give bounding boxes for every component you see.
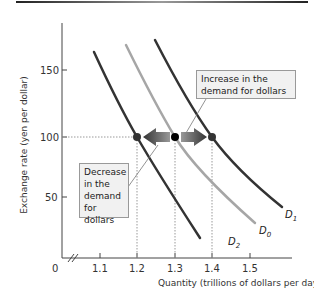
point-d2-equilibrium (133, 133, 141, 141)
curve-d1 (155, 40, 282, 207)
y-tick-label-150: 150 (40, 65, 59, 76)
y-tick-label-100: 100 (40, 132, 59, 143)
decrease-text-4: dollars (84, 214, 124, 226)
y-tick-label-50: 50 (45, 192, 58, 203)
demand-shift-chart: 150 100 50 0 1.1 1.2 1.3 1.4 1.5 Quantit… (0, 0, 314, 304)
point-d1-equilibrium (208, 133, 216, 141)
label-d2: D2 (228, 236, 241, 250)
decrease-text-1: Decrease (84, 166, 124, 178)
label-d0: D0 (259, 225, 272, 239)
increase-text-2: demand for dollars (201, 85, 291, 97)
decrease-text-3: demand for (84, 190, 124, 214)
origin-label: 0 (52, 263, 58, 274)
increase-text-1: Increase in the (201, 73, 291, 85)
decrease-callout: Decrease in the demand for dollars (79, 163, 129, 218)
point-d0-equilibrium (171, 133, 179, 141)
left-arrow-icon (143, 128, 170, 146)
x-tick-label-1.2: 1.2 (129, 263, 145, 274)
right-arrow-icon (181, 128, 207, 146)
y-axis-title: Exchange rate (yen per dollar) (19, 76, 29, 214)
x-tick-label-1.5: 1.5 (242, 263, 258, 274)
x-tick-label-1.4: 1.4 (204, 263, 220, 274)
x-axis-title: Quantity (trillions of dollars per day) (158, 278, 314, 288)
decrease-text-2: in the (84, 178, 124, 190)
x-tick-label-1.1: 1.1 (92, 263, 108, 274)
label-d1: D1 (285, 209, 297, 223)
increase-callout: Increase in the demand for dollars (196, 70, 296, 99)
top-rule (16, 1, 308, 3)
x-tick-label-1.3: 1.3 (167, 263, 183, 274)
